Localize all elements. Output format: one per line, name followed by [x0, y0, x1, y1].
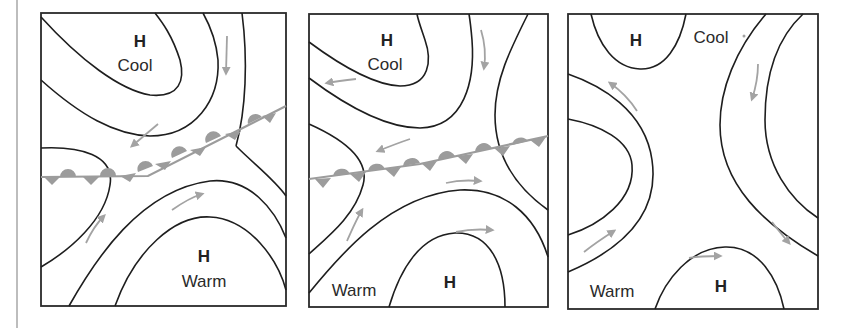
- stray-mark: [743, 35, 746, 38]
- panel-3-wind-arrows: [584, 64, 789, 258]
- high-pressure-label: H: [630, 31, 642, 50]
- panel-2-isobars: [309, 14, 548, 307]
- warm-air-label: Warm: [590, 282, 635, 301]
- warm-air-label: Warm: [332, 281, 377, 300]
- wind-arrow-icon: [456, 229, 492, 232]
- wind-arrow-icon: [752, 64, 758, 99]
- cool-air-label: Cool: [694, 28, 729, 47]
- panel-3: H Cool H Warm: [568, 14, 818, 309]
- wind-arrow-icon: [481, 30, 485, 68]
- wind-arrow-icon: [446, 180, 480, 183]
- weather-map-figure: H Cool H Warm H Cool H: [0, 0, 851, 328]
- high-pressure-label: H: [198, 247, 210, 266]
- high-pressure-label: H: [444, 273, 456, 292]
- high-pressure-label: H: [715, 277, 727, 296]
- wind-arrow-icon: [772, 222, 789, 243]
- panel-1-isobars: [41, 13, 286, 306]
- panel-1-stationary-front: [41, 106, 286, 185]
- cool-air-label: Cool: [118, 56, 153, 75]
- panel-3-isobars: [568, 14, 818, 309]
- warm-air-label: Warm: [182, 272, 227, 291]
- cool-air-label: Cool: [368, 55, 403, 74]
- high-pressure-label: H: [381, 31, 393, 50]
- wind-arrow-icon: [347, 210, 362, 241]
- wind-arrow-icon: [327, 79, 356, 83]
- panel-2: H Cool H Warm: [309, 14, 548, 307]
- panel-3-frame: [568, 14, 818, 309]
- panel-1: H Cool H Warm: [41, 13, 286, 306]
- wind-arrow-icon: [226, 36, 227, 73]
- wind-arrow-icon: [172, 194, 202, 210]
- wind-arrow-icon: [378, 139, 410, 151]
- high-pressure-label: H: [134, 32, 146, 51]
